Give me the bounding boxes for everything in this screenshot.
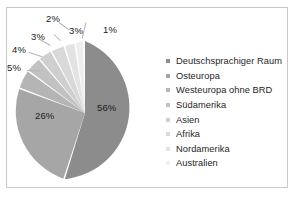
- legend-item-suedamerika[interactable]: Südamerika: [164, 98, 288, 113]
- pie-chart-figure: 2% 3% 1% 3% 4% 5% 26% 56% Deutschsprachi…: [0, 0, 300, 205]
- legend-swatch-icon: [166, 132, 170, 136]
- legend-item-label: Südamerika: [176, 100, 226, 110]
- legend-item-deutschsprachiger-raum[interactable]: Deutschsprachiger Raum: [164, 54, 288, 69]
- legend-swatch-icon: [166, 161, 170, 165]
- legend-swatch-icon: [166, 59, 170, 63]
- pie-graphic: [10, 38, 160, 188]
- slice-label-3pct-b: 3%: [31, 31, 45, 42]
- legend-item-osteuropa[interactable]: Osteuropa: [164, 69, 288, 84]
- legend-swatch-icon: [166, 118, 170, 122]
- slice-label-56pct: 56%: [97, 102, 116, 113]
- plot-area: 2% 3% 1% 3% 4% 5% 26% 56% Deutschsprachi…: [0, 0, 300, 205]
- slice-label-2pct: 2%: [46, 13, 60, 24]
- chart-legend: Deutschsprachiger Raum Osteuropa Westeur…: [164, 54, 288, 171]
- legend-item-nordamerika[interactable]: Nordamerika: [164, 142, 288, 157]
- legend-item-label: Nordamerika: [176, 144, 230, 154]
- legend-item-asien[interactable]: Asien: [164, 112, 288, 127]
- legend-item-label: Asien: [176, 115, 200, 125]
- slice-label-5pct: 5%: [7, 62, 21, 73]
- legend-swatch-icon: [166, 103, 170, 107]
- legend-item-label: Osteuropa: [176, 71, 220, 81]
- slice-label-3pct-a: 3%: [69, 25, 83, 36]
- legend-item-label: Deutschsprachiger Raum: [176, 56, 282, 66]
- slice-label-4pct: 4%: [12, 44, 26, 55]
- legend-item-westeuropa-ohne-brd[interactable]: Westeuropa ohne BRD: [164, 83, 288, 98]
- slice-label-1pct: 1%: [103, 24, 117, 35]
- legend-item-australien[interactable]: Australien: [164, 156, 288, 171]
- legend-swatch-icon: [166, 147, 170, 151]
- legend-item-label: Afrika: [176, 129, 200, 139]
- legend-item-label: Westeuropa ohne BRD: [176, 85, 272, 95]
- slice-label-26pct: 26%: [35, 110, 54, 121]
- legend-swatch-icon: [166, 88, 170, 92]
- legend-item-afrika[interactable]: Afrika: [164, 127, 288, 142]
- legend-swatch-icon: [166, 74, 170, 78]
- legend-item-label: Australien: [176, 158, 218, 168]
